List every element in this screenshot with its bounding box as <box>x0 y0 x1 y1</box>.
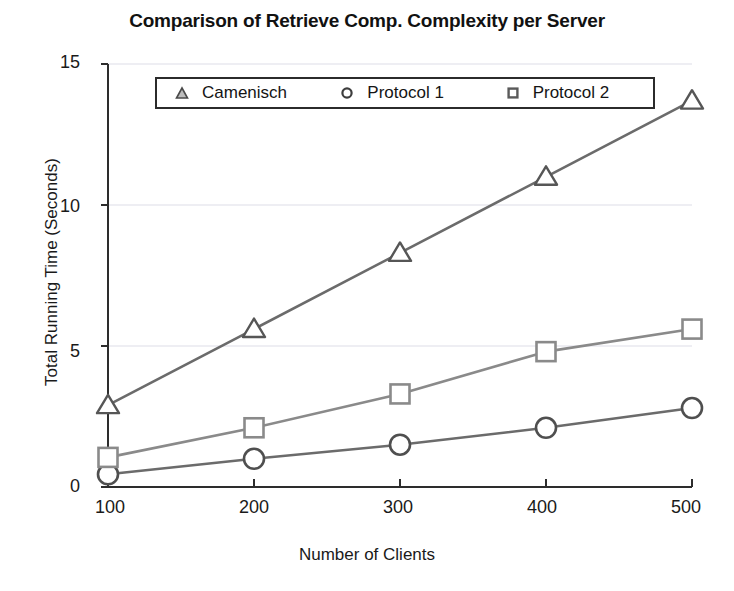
legend-label-camenisch: Camenisch <box>202 83 287 103</box>
triangle-marker-icon <box>173 84 191 102</box>
square-marker-icon <box>504 84 522 102</box>
axis-lines <box>101 64 692 487</box>
legend-entry-protocol-2: Protocol 2 <box>488 83 653 103</box>
legend-entry-camenisch: Camenisch <box>157 83 322 103</box>
legend-label-protocol-1: Protocol 1 <box>367 83 444 103</box>
circle-marker-icon <box>338 84 356 102</box>
chart-figure: Comparison of Retrieve Comp. Complexity … <box>0 0 734 591</box>
series-lines <box>108 101 692 475</box>
legend-label-protocol-2: Protocol 2 <box>533 83 610 103</box>
legend: Camenisch Protocol 1 Protocol 2 <box>155 77 655 109</box>
series-markers <box>97 90 703 484</box>
legend-entry-protocol-1: Protocol 1 <box>322 83 487 103</box>
